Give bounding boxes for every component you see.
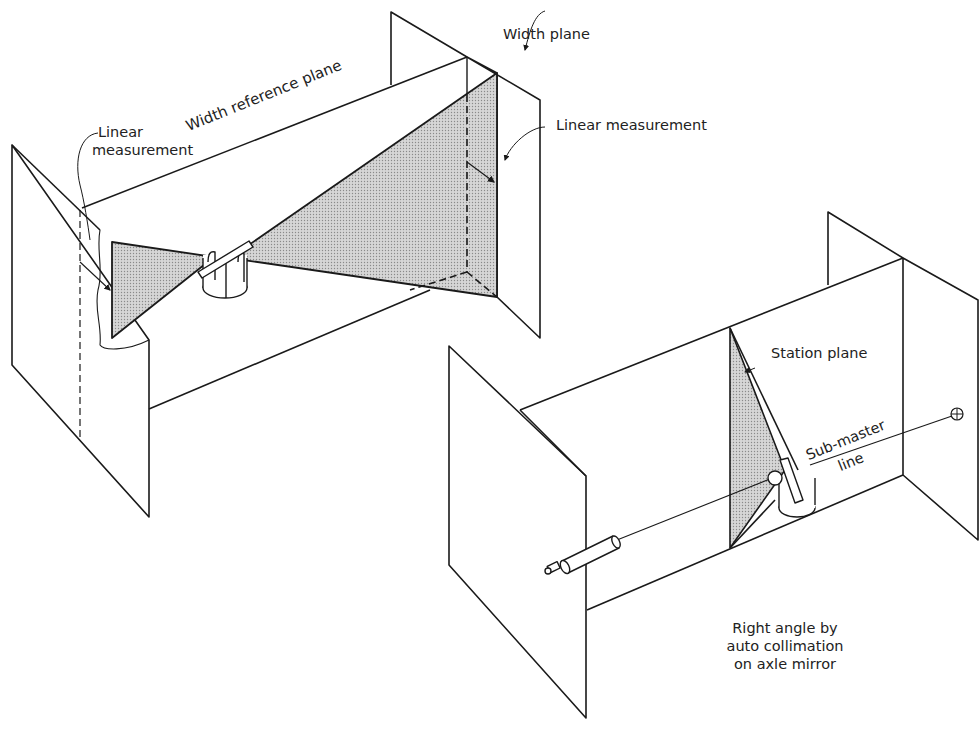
label-right-angle-3: on axle mirror — [700, 656, 870, 673]
wall-bottom-edge — [149, 290, 430, 409]
back-panel — [391, 12, 467, 85]
front-left-panel — [449, 346, 586, 718]
label-right-angle-1: Right angle by — [700, 620, 870, 637]
small-light-triangle — [112, 242, 214, 338]
label-linear-measurement-left-2: measurement — [92, 142, 193, 159]
label-station-plane: Station plane — [771, 345, 867, 362]
label-linear-measurement-left-1: Linear — [98, 124, 143, 141]
big-light-triangle — [230, 73, 497, 297]
wall-top-right — [520, 258, 903, 410]
back-panel-right — [828, 212, 903, 285]
right-panel — [903, 258, 978, 540]
instrument-left — [198, 241, 253, 298]
label-width-plane: Width plane — [503, 26, 590, 43]
label-right-angle-2: auto collimation — [700, 638, 870, 655]
diagram-canvas: Linear measurement Width reference plane… — [0, 0, 979, 735]
label-linear-measurement-right: Linear measurement — [556, 117, 707, 134]
